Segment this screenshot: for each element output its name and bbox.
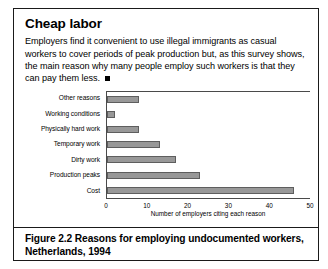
bar	[107, 96, 139, 103]
figure-caption: Figure 2.2 Reasons for employing undocum…	[25, 233, 308, 259]
bar	[107, 156, 176, 163]
end-marker-icon	[105, 76, 110, 81]
x-axis-title: Number of employers citing each reason	[106, 210, 310, 217]
box-title: Cheap labor	[25, 16, 307, 31]
x-axis-tick: 20	[184, 202, 191, 209]
bar	[107, 141, 160, 148]
bar-row	[107, 167, 310, 182]
text-block: Cheap labor Employers find it convenient…	[14, 9, 318, 85]
bar-row	[107, 92, 310, 107]
box-body-paragraph: Employers find it convenient to use ille…	[25, 35, 307, 85]
bar	[107, 187, 294, 194]
y-axis-label: Working conditions	[14, 111, 104, 118]
bars-container	[107, 92, 310, 198]
plot-area	[106, 91, 310, 199]
bar-row	[107, 137, 310, 152]
x-axis-tick: 40	[266, 202, 273, 209]
bar	[107, 126, 139, 133]
y-axis-labels: Other reasonsWorking conditionsPhysicall…	[14, 91, 104, 199]
y-axis-label: Dirty work	[14, 157, 104, 164]
caption-divider	[14, 227, 318, 228]
chart: Other reasonsWorking conditionsPhysicall…	[14, 91, 318, 219]
figure-box: Cheap labor Employers find it convenient…	[13, 8, 319, 261]
bar	[107, 111, 115, 118]
bar	[107, 172, 200, 179]
x-axis-tick: 50	[306, 202, 313, 209]
bar-row	[107, 183, 310, 198]
y-axis-label: Other reasons	[14, 95, 104, 102]
bar-row	[107, 122, 310, 137]
y-axis-label: Production peaks	[14, 172, 104, 179]
box-body-text: Employers find it convenient to use ille…	[25, 36, 305, 83]
y-axis-label: Temporary work	[14, 141, 104, 148]
x-axis-tick: 30	[225, 202, 232, 209]
bar-row	[107, 152, 310, 167]
x-axis-tick: 0	[104, 202, 108, 209]
y-axis-label: Cost	[14, 188, 104, 195]
x-axis: Number of employers citing each reason 0…	[106, 199, 310, 219]
x-axis-tick: 10	[143, 202, 150, 209]
bar-row	[107, 107, 310, 122]
y-axis-label: Physically hard work	[14, 126, 104, 133]
